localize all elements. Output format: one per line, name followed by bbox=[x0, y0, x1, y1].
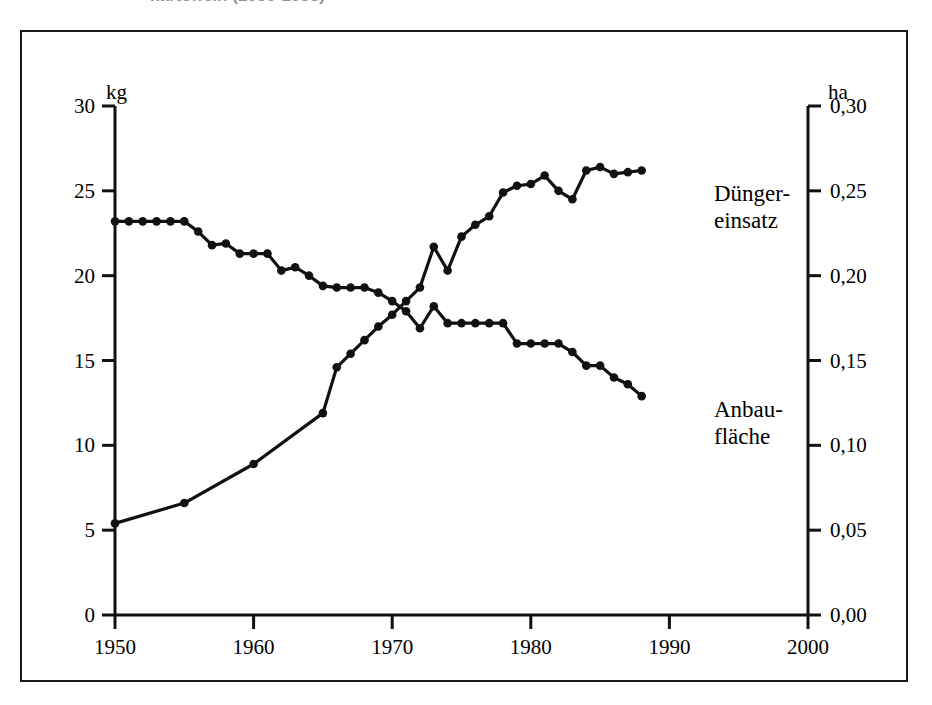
data-point-marker bbox=[485, 319, 494, 328]
data-point-marker bbox=[527, 180, 536, 189]
data-point-marker bbox=[596, 361, 605, 370]
data-point-marker bbox=[152, 217, 161, 226]
data-point-marker bbox=[180, 499, 189, 508]
data-point-marker bbox=[249, 249, 258, 258]
axis-lines bbox=[115, 106, 808, 615]
data-point-marker bbox=[291, 263, 300, 272]
left-axis-tick-label: 15 bbox=[74, 348, 95, 373]
data-point-marker bbox=[610, 170, 619, 179]
data-point-marker bbox=[346, 283, 355, 292]
right-axis-tick-label: 0,25 bbox=[830, 178, 867, 203]
right-axis-tick-label: 0,15 bbox=[830, 348, 867, 373]
data-point-marker bbox=[568, 348, 577, 357]
chart-frame: kg ha Dünger- einsatz Anbau- fläche 3025… bbox=[20, 30, 908, 682]
data-point-marker bbox=[540, 339, 549, 348]
data-point-marker bbox=[277, 266, 286, 275]
data-point-marker bbox=[596, 163, 605, 172]
left-axis-tick-label: 0 bbox=[85, 603, 96, 628]
data-point-marker bbox=[416, 283, 425, 292]
data-point-marker bbox=[513, 339, 522, 348]
series-label-duengereinsatz: Dünger- einsatz bbox=[714, 180, 790, 234]
x-axis-tick-label: 2000 bbox=[787, 635, 829, 660]
data-point-marker bbox=[374, 322, 383, 331]
data-point-marker bbox=[568, 195, 577, 204]
chart-plot-area bbox=[22, 32, 906, 680]
data-point-marker bbox=[194, 227, 203, 236]
data-point-marker bbox=[429, 243, 438, 252]
data-point-marker bbox=[319, 409, 328, 418]
data-point-marker bbox=[513, 181, 522, 190]
data-point-marker bbox=[360, 283, 369, 292]
left-axis-unit-label: kg bbox=[106, 80, 127, 105]
data-point-marker bbox=[624, 380, 633, 389]
figure-container: kartoffeln (1950-1988) kg ha Dünger- ein… bbox=[0, 0, 932, 705]
right-axis-tick-label: 0,10 bbox=[830, 433, 867, 458]
data-point-marker bbox=[471, 319, 480, 328]
data-point-marker bbox=[111, 519, 120, 528]
data-point-marker bbox=[402, 297, 411, 306]
caption-remnant-text: kartoffeln (1950-1988) bbox=[150, 0, 530, 4]
data-point-marker bbox=[624, 168, 633, 177]
left-axis-tick-label: 5 bbox=[85, 518, 96, 543]
x-axis-tick-label: 1990 bbox=[648, 635, 690, 660]
data-point-marker bbox=[125, 217, 134, 226]
data-point-marker bbox=[429, 302, 438, 311]
x-axis-tick-label: 1950 bbox=[94, 635, 136, 660]
data-point-marker bbox=[582, 166, 591, 175]
left-axis-tick-label: 25 bbox=[74, 178, 95, 203]
data-point-marker bbox=[443, 266, 452, 275]
right-axis-tick-label: 0,05 bbox=[830, 518, 867, 543]
data-point-marker bbox=[485, 212, 494, 221]
data-point-marker bbox=[471, 220, 480, 229]
series-markers bbox=[111, 163, 646, 528]
right-axis-tick-label: 0,00 bbox=[830, 603, 867, 628]
x-axis-tick-label: 1960 bbox=[233, 635, 275, 660]
data-point-marker bbox=[540, 171, 549, 180]
data-point-marker bbox=[332, 363, 341, 372]
data-point-marker bbox=[249, 460, 258, 469]
data-point-marker bbox=[554, 187, 563, 196]
data-point-marker bbox=[319, 282, 328, 291]
series-line-anbauflche bbox=[115, 221, 642, 396]
left-axis-tick-label: 30 bbox=[74, 94, 95, 119]
right-axis-tick-label: 0,20 bbox=[830, 263, 867, 288]
x-axis-tick-label: 1980 bbox=[510, 635, 552, 660]
data-point-marker bbox=[499, 319, 508, 328]
data-point-marker bbox=[180, 217, 189, 226]
data-point-marker bbox=[457, 232, 466, 241]
left-axis-tick-label: 10 bbox=[74, 433, 95, 458]
data-point-marker bbox=[416, 324, 425, 333]
data-point-marker bbox=[554, 339, 563, 348]
data-point-marker bbox=[360, 336, 369, 345]
data-point-marker bbox=[305, 271, 314, 280]
data-point-marker bbox=[457, 319, 466, 328]
data-point-marker bbox=[374, 288, 383, 297]
data-point-marker bbox=[527, 339, 536, 348]
data-point-marker bbox=[166, 217, 175, 226]
series-polylines bbox=[115, 167, 642, 523]
data-point-marker bbox=[443, 319, 452, 328]
data-point-marker bbox=[388, 297, 397, 306]
data-point-marker bbox=[111, 217, 120, 226]
series-label-anbauflaeche: Anbau- fläche bbox=[714, 396, 783, 450]
data-point-marker bbox=[637, 392, 646, 401]
x-axis-tick-label: 1970 bbox=[371, 635, 413, 660]
data-point-marker bbox=[499, 188, 508, 197]
data-point-marker bbox=[388, 310, 397, 319]
right-axis-tick-label: 0,30 bbox=[830, 94, 867, 119]
data-point-marker bbox=[637, 166, 646, 175]
data-point-marker bbox=[263, 249, 272, 258]
data-point-marker bbox=[235, 249, 244, 258]
data-point-marker bbox=[582, 361, 591, 370]
data-point-marker bbox=[346, 349, 355, 358]
data-point-marker bbox=[222, 239, 231, 248]
left-axis-tick-label: 20 bbox=[74, 263, 95, 288]
data-point-marker bbox=[610, 373, 619, 382]
data-point-marker bbox=[138, 217, 147, 226]
data-point-marker bbox=[208, 241, 217, 250]
data-point-marker bbox=[332, 283, 341, 292]
data-point-marker bbox=[402, 307, 411, 316]
